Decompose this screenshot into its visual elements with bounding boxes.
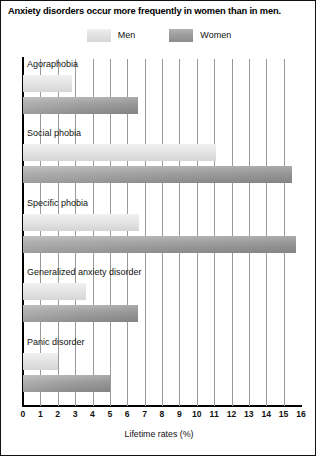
category-label: Generalized anxiety disorder xyxy=(27,267,142,278)
x-tick-label: 3 xyxy=(73,409,78,419)
bar-group: Agoraphobia xyxy=(23,59,301,128)
bar-men xyxy=(23,144,216,161)
x-tick-label: 1 xyxy=(38,409,43,419)
bar-women xyxy=(23,305,138,322)
legend-label-men: Men xyxy=(118,30,136,40)
bar-men xyxy=(23,75,72,92)
x-axis-title: Lifetime rates (%) xyxy=(1,429,316,439)
chart-figure: Anxiety disorders occur more frequently … xyxy=(0,0,316,456)
bar-men xyxy=(23,214,139,231)
bar-group: Specific phobia xyxy=(23,198,301,267)
category-label: Specific phobia xyxy=(27,198,88,209)
bar-women xyxy=(23,97,138,114)
bar-group: Panic disorder xyxy=(23,337,301,406)
bar-group: Generalized anxiety disorder xyxy=(23,267,301,336)
x-tick-label: 9 xyxy=(177,409,182,419)
bar-group: Social phobia xyxy=(23,128,301,197)
plot-area: AgoraphobiaSocial phobiaSpecific phobiaG… xyxy=(23,59,301,406)
x-tick-label: 14 xyxy=(261,409,271,419)
x-tick-label: 5 xyxy=(107,409,112,419)
bar-men xyxy=(23,283,86,300)
x-tick-label: 8 xyxy=(160,409,165,419)
bar-women xyxy=(23,375,110,392)
x-tick-label: 6 xyxy=(125,409,130,419)
x-tick-label: 2 xyxy=(55,409,60,419)
legend-swatch-women-icon xyxy=(169,29,193,42)
x-tick-label: 4 xyxy=(90,409,95,419)
chart-title: Anxiety disorders occur more frequently … xyxy=(8,6,310,17)
legend-swatch-men-icon xyxy=(87,29,111,42)
bar-men xyxy=(23,353,58,370)
x-axis-ticks: 012345678910111213141516 xyxy=(23,407,301,425)
chart-legend: Men Women xyxy=(1,27,316,43)
legend-entry-men: Men xyxy=(87,29,136,42)
bar-women xyxy=(23,166,292,183)
bar-women xyxy=(23,236,296,253)
x-tick-label: 7 xyxy=(142,409,147,419)
x-tick-label: 0 xyxy=(21,409,26,419)
category-label: Social phobia xyxy=(27,128,81,139)
x-tick-label: 11 xyxy=(210,409,219,419)
bar-groups: AgoraphobiaSocial phobiaSpecific phobiaG… xyxy=(23,59,301,406)
x-tick-label: 16 xyxy=(296,409,306,419)
x-tick-label: 10 xyxy=(192,409,202,419)
x-tick-label: 15 xyxy=(279,409,289,419)
x-tick-label: 13 xyxy=(244,409,254,419)
x-tick-label: 12 xyxy=(227,409,237,419)
legend-label-women: Women xyxy=(200,30,231,40)
category-label: Agoraphobia xyxy=(27,59,78,70)
legend-entry-women: Women xyxy=(169,29,231,42)
category-label: Panic disorder xyxy=(27,337,85,348)
